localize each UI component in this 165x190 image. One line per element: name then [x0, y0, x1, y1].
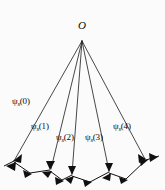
ray-psi-s-3 [82, 41, 109, 171]
arrowhead-ray-1 [46, 161, 55, 170]
ray-group [14, 41, 145, 174]
apex-label-o: O [78, 20, 86, 31]
ray-label-psi-s-2: ψs(2) [56, 133, 74, 144]
psi-arg-2: (2) [64, 132, 74, 142]
arc-arrowhead-7 [102, 173, 111, 181]
ray-label-psi-s-3: ψs(3) [85, 133, 103, 144]
arc-arrowhead-6 [83, 180, 92, 187]
arrowhead-ray-3 [105, 163, 113, 172]
arc-segment-7 [109, 173, 126, 179]
psi-arg-3: (3) [93, 132, 103, 142]
arrowhead-ray-2 [68, 166, 76, 175]
arc-arrowhead-3 [42, 171, 52, 178]
psi-arg-4: (4) [121, 121, 131, 131]
ray-label-psi-s-1: ψs(1) [31, 122, 49, 133]
arc-arrowhead-1 [6, 162, 16, 171]
figure-canvas: O ψs(0) ψs(1) ψs(2) ψs(3) ψs(4) [0, 0, 165, 190]
arc-segment-1 [14, 162, 30, 173]
ray-label-psi-s-0: ψs(0) [12, 97, 30, 108]
arc-arrowhead-10 [149, 153, 158, 162]
scalloped-arc [4, 156, 159, 182]
ray-arrowhead-group [13, 154, 146, 175]
ray-label-psi-s-4: ψs(4) [113, 122, 131, 133]
arc-arrowhead-5 [65, 176, 74, 184]
psi-arg-1: (1) [39, 121, 49, 131]
psi-arg-0: (0) [20, 96, 30, 106]
